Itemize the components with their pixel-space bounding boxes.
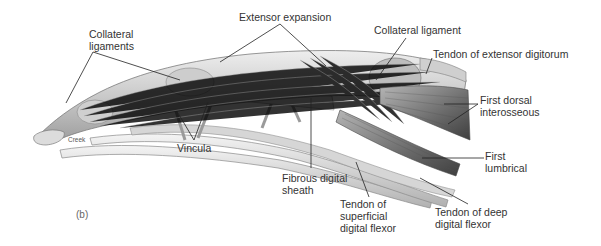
label-tendon-extensor-digitorum: Tendon of extensor digitorum	[433, 48, 568, 60]
label-tendon-deep-digital-flexor: Tendon of deep digital flexor	[435, 206, 507, 230]
label-collateral-ligaments: Collateral ligaments	[89, 28, 134, 52]
label-collateral-ligament: Collateral ligament	[374, 24, 461, 36]
anatomy-figure: Collateral ligaments Extensor expansion …	[0, 0, 601, 246]
label-extensor-expansion: Extensor expansion	[239, 11, 331, 23]
panel-label: (b)	[76, 209, 88, 221]
artist-signature: Creek	[68, 136, 85, 144]
label-vincula: Vincula	[177, 142, 211, 154]
label-first-lumbrical: First lumbrical	[485, 150, 527, 174]
label-tendon-superficial-digital-flexor: Tendon of superficial digital flexor	[340, 198, 396, 234]
label-fibrous-digital-sheath: Fibrous digital sheath	[282, 172, 347, 196]
label-first-dorsal-interosseous: First dorsal interosseous	[480, 94, 540, 118]
